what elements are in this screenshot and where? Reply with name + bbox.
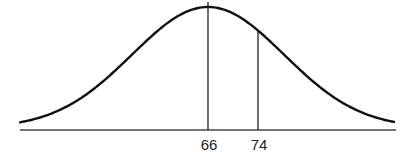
bell-curve xyxy=(20,7,394,122)
marker-lines xyxy=(208,2,258,130)
tick-label-mean: 66 xyxy=(201,136,218,154)
tick-label-74: 74 xyxy=(251,136,268,154)
